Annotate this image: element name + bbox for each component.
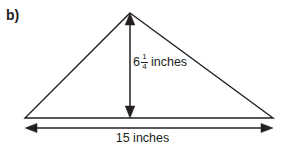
height-fraction-denominator: 4: [141, 63, 147, 72]
part-label: b): [6, 8, 19, 22]
triangle-diagram-svg: [0, 0, 285, 149]
height-label: 6 1 4 inches: [133, 53, 187, 71]
height-whole-number: 6: [133, 56, 140, 69]
height-fraction: 1 4: [141, 53, 148, 71]
base-label: 15 inches: [0, 132, 285, 145]
geometry-figure: b) 6 1 4 inches 15 inches: [0, 0, 285, 149]
height-unit-label: inches: [151, 56, 187, 69]
height-arrowhead-down-icon: [125, 106, 135, 118]
height-fraction-numerator: 1: [141, 53, 147, 62]
